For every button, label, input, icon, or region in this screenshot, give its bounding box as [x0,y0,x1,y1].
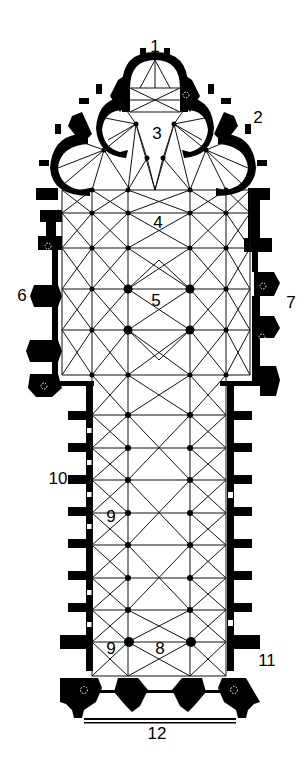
label-12: 12 [148,725,167,742]
label-5: 5 [151,292,160,309]
label-3: 3 [152,125,161,142]
label-6: 6 [17,287,26,304]
label-7: 7 [286,294,295,311]
label-11: 11 [258,652,276,669]
piers [90,122,229,648]
label-10: 10 [49,470,68,487]
label-8: 8 [155,640,164,657]
label-1: 1 [150,38,159,55]
west-facade [60,678,260,724]
label-2: 2 [253,109,262,126]
label-4: 4 [153,214,162,231]
label-9-lower: 9 [106,640,115,657]
label-9-upper: 9 [106,508,115,525]
